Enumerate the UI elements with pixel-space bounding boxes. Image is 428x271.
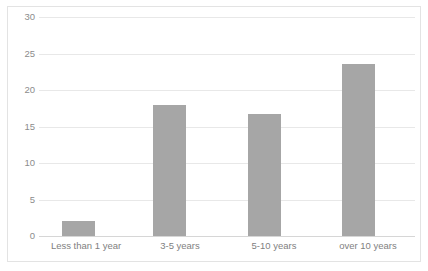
bar-0	[62, 221, 95, 236]
gridline-0	[39, 236, 415, 237]
y-tick-label: 0	[9, 231, 35, 241]
x-tick-label: Less than 1 year	[39, 240, 133, 252]
chart-title	[0, 0, 428, 5]
y-tick-label: 5	[9, 195, 35, 205]
x-tick-label: over 10 years	[321, 240, 415, 252]
y-tick-label: 20	[9, 85, 35, 95]
x-axis: Less than 1 year3-5 years5-10 yearsover …	[39, 240, 415, 260]
x-tick-label: 5-10 years	[227, 240, 321, 252]
y-tick-label: 15	[9, 122, 35, 132]
y-axis: 051015202530	[5, 17, 35, 236]
gridline-30	[39, 17, 415, 18]
y-tick-label: 30	[9, 12, 35, 22]
y-tick-label: 25	[9, 49, 35, 59]
gridline-25	[39, 54, 415, 55]
y-tick-label: 10	[9, 158, 35, 168]
bar-chart: 051015202530 Less than 1 year3-5 years5-…	[0, 0, 428, 271]
x-tick-label: 3-5 years	[133, 240, 227, 252]
bar-3	[342, 64, 375, 236]
plot-area	[39, 17, 415, 236]
bar-1	[153, 105, 186, 236]
bar-2	[248, 114, 281, 236]
